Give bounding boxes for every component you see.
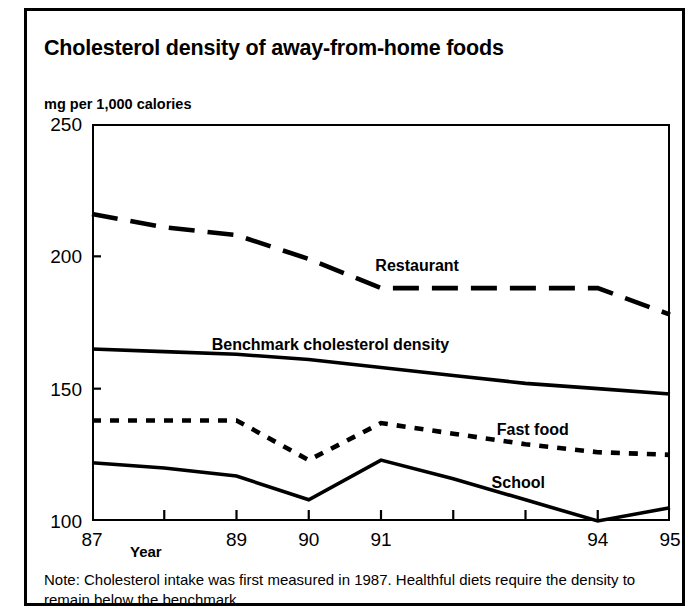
plot-area xyxy=(92,124,670,521)
x-axis-tick-label: 90 xyxy=(289,530,329,549)
plot-lines-layer xyxy=(92,124,670,521)
series-line-benchmark-cholesterol-density xyxy=(92,349,670,394)
y-axis-tick-label: 100 xyxy=(22,512,82,531)
series-label-school: School xyxy=(492,474,545,492)
series-label-fast-food: Fast food xyxy=(497,421,569,439)
series-line-fast-food xyxy=(92,420,670,460)
chart-title: Cholesterol density of away-from-home fo… xyxy=(44,36,504,61)
y-axis-tick-label: 250 xyxy=(22,115,82,134)
x-axis-tick-label: 95 xyxy=(650,530,690,549)
y-axis-tick-label: 150 xyxy=(22,380,82,399)
x-axis-tick-label: 87 xyxy=(72,530,112,549)
series-label-restaurant: Restaurant xyxy=(375,257,459,275)
chart-note: Note: Cholesterol intake was first measu… xyxy=(44,570,644,610)
x-axis-tick-label: 94 xyxy=(578,530,618,549)
x-axis-title: Year xyxy=(130,543,162,560)
series-label-benchmark-cholesterol-density: Benchmark cholesterol density xyxy=(212,336,449,354)
x-axis-tick-label: 91 xyxy=(361,530,401,549)
chart-figure: Cholesterol density of away-from-home fo… xyxy=(0,0,700,614)
y-axis-tick-label: 200 xyxy=(22,247,82,266)
x-axis-tick-label: 89 xyxy=(217,530,257,549)
y-axis-unit-label: mg per 1,000 calories xyxy=(44,96,192,112)
